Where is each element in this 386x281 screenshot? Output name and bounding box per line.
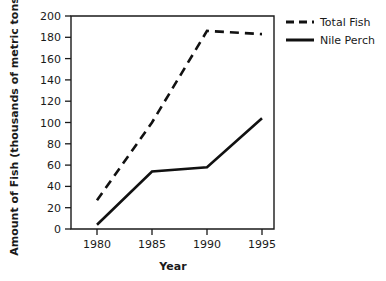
y-tick-label: 0 (54, 223, 61, 236)
legend-label: Total Fish (319, 16, 371, 29)
chart-svg: 0 20 40 60 80 100 120 140 160 180 200 19… (0, 0, 386, 281)
x-tick-label: 1995 (248, 238, 276, 251)
x-tick-label: 1980 (83, 238, 111, 251)
y-tick-label: 140 (40, 74, 61, 87)
x-tick-label: 1990 (193, 238, 221, 251)
y-tick-label: 60 (47, 159, 61, 172)
y-tick-label: 80 (47, 138, 61, 151)
y-tick-label: 120 (40, 95, 61, 108)
y-tick-label: 40 (47, 180, 61, 193)
y-tick-label: 160 (40, 53, 61, 66)
y-axis-title: Amount of Fish (thousands of metric tons… (8, 0, 21, 256)
x-tick-label: 1985 (138, 238, 166, 251)
y-tick-label: 100 (40, 117, 61, 130)
y-tick-label: 200 (40, 10, 61, 23)
x-axis-title: Year (158, 260, 187, 273)
fish-catch-line-chart: 0 20 40 60 80 100 120 140 160 180 200 19… (0, 0, 386, 281)
y-tick-label: 180 (40, 31, 61, 44)
legend-label: Nile Perch (320, 34, 375, 47)
y-tick-label: 20 (47, 202, 61, 215)
